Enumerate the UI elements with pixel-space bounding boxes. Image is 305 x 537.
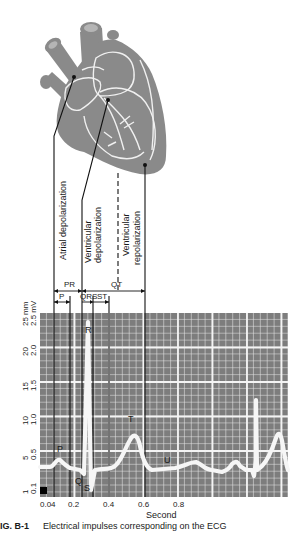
calibration-square [40,487,47,494]
x-axis-labels: 0.04 0.2 0.4 0.6 0.8 Second [40,500,185,520]
heart-illustration [40,22,166,174]
q-wave-label: Q [75,476,82,486]
x-label-0-8: 0.8 [173,500,185,509]
s-wave-label: S [84,483,90,493]
p-interval-label: P [59,292,64,301]
ventricular-depolarization-label-1: Ventricular [83,220,93,263]
st-interval-label: ST [97,292,107,301]
ventricular-depolarization-label-2: depolarization [93,207,103,263]
heart-body [57,40,167,175]
atrial-depolarization-label: Atrial depolarization [58,181,68,260]
qrs-interval-label: QRS [80,292,97,301]
pr-interval-label: PR [64,280,75,289]
ventricular-repolarization-label-2: repolarization [132,211,142,265]
annotation-labels: Atrial depolarization Ventricular depola… [58,181,142,265]
y-label-mv-1: 0.1 [29,482,38,494]
ecg-diagram: Atrial depolarization Ventricular depola… [0,0,305,537]
x-label-0-04: 0.04 [40,500,56,509]
y-label-mv-25: 2.5 mV [29,300,38,326]
r-wave-label: R [85,325,92,335]
y-label-mv-15: 1.5 [29,379,38,391]
x-label-0-6: 0.6 [138,500,150,509]
ventricular-repolarization-label-1: Ventricular [121,213,131,256]
y-label-mv-5: 0.5 [29,448,38,460]
y-axis-labels: 25 mm 2.5 mV 20 2.0 15 1.5 10 1.0 5 0.5 … [21,300,38,494]
y-label-mv-20: 2.0 [29,344,38,356]
t-wave-label: T [128,414,134,424]
y-label-mv-10: 1.0 [29,413,38,425]
qt-interval-label: QT [111,280,122,289]
figure-caption: IG. B-1Electrical impulses corresponding… [0,521,305,537]
u-wave-label: U [164,455,171,465]
x-label-0-4: 0.4 [103,500,115,509]
x-axis-title: Second [146,510,177,520]
x-label-0-2: 0.2 [68,500,80,509]
figure-caption-text: Electrical impulses corresponding on the… [43,521,227,531]
figure-number: IG. B-1 [0,521,29,531]
p-wave-label: P [57,444,63,454]
